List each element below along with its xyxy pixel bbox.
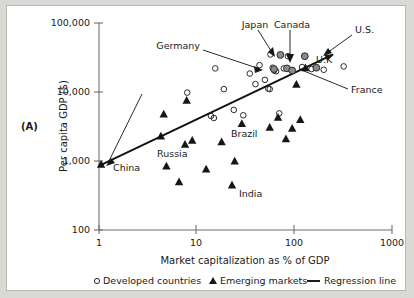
leader-france <box>299 69 348 89</box>
data-point <box>289 67 296 74</box>
y-tick-label-100000: 100,000 <box>51 17 90 28</box>
data-point <box>247 71 253 77</box>
series-labeled-countries <box>271 51 320 73</box>
label-uk: U.K <box>316 54 333 65</box>
label-canada: Canada <box>274 19 310 30</box>
data-point <box>175 178 183 186</box>
label-brazil: Brazil <box>231 128 258 139</box>
data-point <box>240 112 246 118</box>
label-china: China <box>113 162 140 173</box>
legend-label-developed: Developed countries <box>103 275 201 286</box>
y-axis-title: Per capita GDP ($) <box>58 80 69 172</box>
figure-panel: 100,000 10,000 1,000 100 1 10 100 1000 M… <box>6 5 406 291</box>
x-axis-ticks: 1 10 100 1000 <box>96 225 404 248</box>
data-point <box>296 115 304 123</box>
label-us: U.S. <box>355 24 374 35</box>
data-point <box>212 66 218 72</box>
panel-label: (A) <box>21 121 38 132</box>
x-axis-title: Market capitalization as % of GDP <box>160 255 329 266</box>
data-point <box>266 123 274 131</box>
data-point <box>288 124 296 132</box>
data-point <box>277 51 284 58</box>
chart-plot-area: 100,000 10,000 1,000 100 1 10 100 1000 M… <box>7 6 407 292</box>
label-japan: Japan <box>241 19 269 30</box>
data-point <box>274 113 282 121</box>
data-point <box>228 181 236 189</box>
data-point <box>182 96 190 104</box>
leader-germany <box>203 50 260 69</box>
data-point <box>188 136 196 144</box>
data-point <box>257 62 263 68</box>
legend-label-regression: Regression line <box>324 275 396 286</box>
data-point <box>253 81 259 87</box>
data-point <box>301 53 308 60</box>
data-point <box>282 135 290 143</box>
x-tick-label-1: 1 <box>96 237 102 248</box>
data-point <box>160 110 168 118</box>
data-point <box>162 162 170 170</box>
scatter-chart-svg: 100,000 10,000 1,000 100 1 10 100 1000 M… <box>7 6 407 292</box>
data-point <box>217 138 225 146</box>
data-point <box>181 140 189 148</box>
legend-marker-emerging <box>209 277 217 284</box>
annotation-labels: Germany Japan Canada U.S. U.K France Chi… <box>113 19 383 199</box>
label-india: India <box>239 188 262 199</box>
data-point <box>262 77 268 83</box>
x-tick-label-1000: 1000 <box>380 237 404 248</box>
data-point <box>221 86 227 92</box>
data-point <box>202 165 210 173</box>
data-point <box>184 90 190 96</box>
data-point <box>341 64 347 70</box>
data-point <box>238 119 246 127</box>
data-point <box>231 107 237 113</box>
leader-us <box>327 35 352 53</box>
data-point <box>313 64 320 71</box>
data-point <box>230 157 238 165</box>
label-russia: Russia <box>157 148 188 159</box>
data-point <box>271 66 278 73</box>
chart-legend: Developed countries Emerging markets Reg… <box>94 275 396 286</box>
data-point <box>321 67 327 73</box>
legend-label-emerging: Emerging markets <box>220 275 307 286</box>
x-tick-label-10: 10 <box>190 237 202 248</box>
y-tick-label-100: 100 <box>72 224 90 235</box>
legend-marker-developed <box>94 278 99 283</box>
x-tick-label-100: 100 <box>285 237 303 248</box>
label-germany: Germany <box>156 40 200 51</box>
label-france: France <box>351 84 383 95</box>
data-point <box>292 80 300 88</box>
